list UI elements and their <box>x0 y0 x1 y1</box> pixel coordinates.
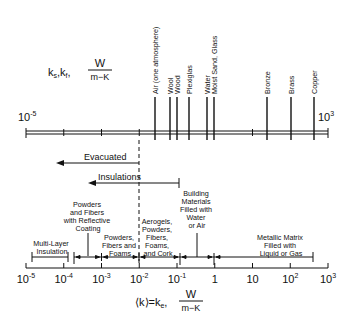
bottom-unit-numerator: W <box>186 288 197 300</box>
arrow-left-icon <box>88 180 96 186</box>
tick-label: 10-5 <box>17 272 36 285</box>
tick-label: 102 <box>282 272 298 285</box>
category-powders-fibers-foams: Powders, Fibers and Foams <box>102 233 138 258</box>
tick-label: 10-2 <box>130 272 149 285</box>
material-plexiglas: Plexiglas <box>185 65 194 94</box>
tick-label: 10-3 <box>92 272 111 285</box>
bottom-axis-tick-labels: 10-5 10-4 10-3 10-2 10-1 1 10 102 103 <box>17 272 336 285</box>
category-powders-reflective: Powders and Fibers with Reflective Coati… <box>63 200 112 233</box>
evacuated-arrow: Evacuated <box>56 152 139 166</box>
top-axis: 10-5 103 Air (one atmosphere) <box>18 26 334 140</box>
category-building-materials: Building Materials Filled with Water or … <box>180 189 214 230</box>
insulations-label: Insulations <box>98 172 142 182</box>
category-multi-layer: Multi-Layer Insulation <box>33 239 71 256</box>
thermal-conductivity-diagram: ks,kf, W m−K 10-5 103 <box>0 0 353 323</box>
top-symbol-k-s: ks,kf, <box>48 66 71 79</box>
material-moist-sand-glass: Moist Sand, Glass <box>210 35 219 94</box>
material-bronze: Bronze <box>263 71 272 94</box>
top-axis-right-label: 103 <box>318 110 334 123</box>
effective-conductivity-symbol: ⟨k⟩=ke, <box>135 296 167 309</box>
evacuated-label: Evacuated <box>84 152 127 162</box>
insulations-arrow: Insulations <box>88 172 179 188</box>
category-labels: Multi-Layer Insulation Powders and Fiber… <box>33 189 305 258</box>
tick-label: 10-4 <box>55 272 74 285</box>
arrow-left-icon <box>56 160 64 166</box>
bottom-axis: 10-5 10-4 10-3 10-2 10-1 1 10 102 103 <box>17 263 336 285</box>
material-air: Air (one atmosphere) <box>151 26 160 94</box>
top-unit-numerator: W <box>95 57 106 69</box>
top-scale-title: ks,kf, W m−K <box>48 57 112 82</box>
category-aerogels: Aerogels, Powders, Fibers, Foams, and Co… <box>142 217 174 258</box>
category-metallic-matrix: Metallic Matrix Filled with Liquid or Ga… <box>257 233 305 258</box>
material-labels: Air (one atmosphere) Wool Wood Plexiglas… <box>151 26 319 94</box>
bottom-axis-title: ⟨k⟩=ke, W m−K <box>135 288 203 313</box>
tick-label: 1 <box>212 273 218 285</box>
material-brass: Brass <box>287 75 296 94</box>
tick-label: 10 <box>246 273 258 285</box>
top-axis-left-label: 10-5 <box>18 110 37 123</box>
tick-label: 10-1 <box>168 272 187 285</box>
material-copper: Copper <box>310 70 319 94</box>
top-unit-denominator: m−K <box>91 72 110 82</box>
tick-label: 103 <box>320 272 336 285</box>
material-wood: Wood <box>173 75 182 94</box>
bottom-unit-denominator: m−K <box>182 303 201 313</box>
